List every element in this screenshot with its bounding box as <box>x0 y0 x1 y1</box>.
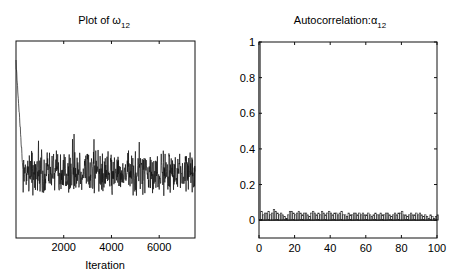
autocorrelation-y-tick-label: 0.8 <box>240 72 255 84</box>
autocorrelation-plot-panel: Autocorrelation:α12 02040608010000.20.40… <box>240 14 446 254</box>
autocorrelation-ticks: 02040608010000.20.40.60.81 <box>240 36 446 254</box>
trace-plot-panel: Plot of ω12 200040006000 Iteration <box>16 14 195 271</box>
autocorrelation-y-tick-label: 0.4 <box>240 143 255 155</box>
trace-line <box>16 60 195 196</box>
trace-x-tick-label: 4000 <box>99 241 123 253</box>
autocorrelation-x-tick-label: 40 <box>324 242 336 254</box>
trace-x-axis-label: Iteration <box>85 259 125 271</box>
autocorrelation-x-tick-label: 80 <box>395 242 407 254</box>
autocorrelation-y-tick-label: 0 <box>249 214 255 226</box>
autocorrelation-y-tick-label: 0.2 <box>240 179 255 191</box>
figure: Plot of ω12 200040006000 Iteration Autoc… <box>0 0 455 280</box>
autocorrelation-x-tick-label: 0 <box>256 242 262 254</box>
autocorrelation-y-tick-label: 0.6 <box>240 107 255 119</box>
trace-plot-frame <box>16 41 195 238</box>
trace-x-tick-label: 6000 <box>147 241 171 253</box>
trace-x-tick-label: 2000 <box>51 241 75 253</box>
autocorrelation-x-tick-label: 20 <box>288 242 300 254</box>
autocorrelation-bars <box>259 42 439 220</box>
autocorrelation-x-tick-label: 100 <box>428 242 446 254</box>
autocorrelation-y-tick-label: 1 <box>249 36 255 48</box>
autocorrelation-x-tick-label: 60 <box>360 242 372 254</box>
autocorrelation-plot-title: Autocorrelation:α12 <box>294 14 387 30</box>
trace-plot-title: Plot of ω12 <box>78 14 130 30</box>
autocorrelation-plot-frame <box>259 42 437 238</box>
trace-x-ticks: 200040006000 <box>51 41 171 253</box>
